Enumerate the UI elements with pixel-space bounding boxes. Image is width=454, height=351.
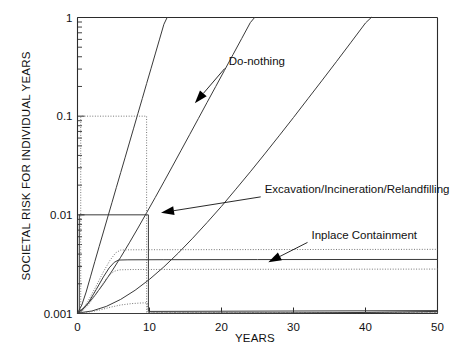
chart-series-dotted-plateau-upper-0.0044 bbox=[80, 249, 437, 313]
annotation-arrowhead bbox=[268, 253, 282, 263]
risk-vs-years-chart: 0.0010.010.11 01020304050 Do-nothingExca… bbox=[0, 0, 454, 351]
y-tick-label: 1 bbox=[66, 12, 72, 24]
y-axis-title: SOCIETAL RISK FOR INDIVIDUAL YEARS bbox=[20, 51, 32, 280]
y-tick-label: 0.001 bbox=[44, 308, 73, 320]
annotation-arrowhead bbox=[161, 206, 175, 215]
x-tick-label: 30 bbox=[287, 321, 300, 333]
annotation-leader-line bbox=[174, 197, 261, 211]
annotation-label: Inplace Containment bbox=[312, 229, 418, 241]
annotation-arrowhead bbox=[195, 91, 207, 104]
x-tick-label: 40 bbox=[359, 321, 372, 333]
x-tick-label: 50 bbox=[431, 321, 444, 333]
chart-series-solid-plateau-0.0035 bbox=[80, 259, 438, 313]
annotation-label: Excavation/Incineration/Relandfilling bbox=[265, 183, 450, 195]
y-axis-ticks bbox=[78, 18, 85, 314]
x-tick-label: 20 bbox=[215, 321, 228, 333]
annotation-label: Do-nothing bbox=[229, 55, 285, 67]
x-tick-label: 0 bbox=[74, 321, 80, 333]
x-axis-title: YEARS bbox=[235, 332, 275, 344]
chart-series-inplace-containment-rising-curve bbox=[78, 18, 372, 314]
y-tick-label: 0.01 bbox=[50, 209, 72, 221]
y-tick-label: 0.1 bbox=[57, 110, 73, 122]
chart-annotations-group: Do-nothingExcavation/Incineration/Reland… bbox=[161, 55, 449, 262]
y-axis-tick-labels: 0.0010.010.11 bbox=[44, 12, 73, 320]
chart-series-do-nothing-rising-curve-1 bbox=[78, 18, 168, 314]
x-tick-label: 10 bbox=[143, 321, 156, 333]
x-axis-tick-labels: 01020304050 bbox=[74, 321, 444, 333]
